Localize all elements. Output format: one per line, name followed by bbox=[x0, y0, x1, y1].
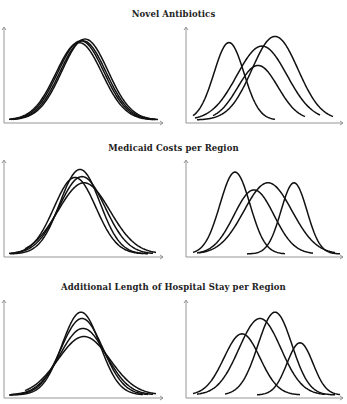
distribution-curve bbox=[9, 177, 143, 253]
distribution-curve bbox=[11, 41, 156, 120]
chart-hospital-stay-left bbox=[3, 300, 167, 402]
distribution-curve bbox=[9, 43, 153, 120]
distribution-curve bbox=[257, 343, 340, 395]
y-axis bbox=[184, 160, 188, 257]
x-axis bbox=[186, 255, 343, 259]
y-axis bbox=[2, 27, 6, 123]
distribution-curve bbox=[193, 172, 285, 254]
distribution-curve bbox=[25, 183, 156, 253]
section-title-hospital-stay: Additional Length of Hospital Stay per R… bbox=[0, 282, 347, 292]
distribution-curve bbox=[193, 334, 300, 395]
distribution-curve bbox=[25, 337, 156, 394]
x-axis bbox=[186, 121, 343, 125]
x-axis bbox=[4, 255, 163, 259]
x-axis bbox=[4, 121, 163, 125]
y-axis bbox=[184, 27, 188, 123]
x-axis bbox=[4, 396, 163, 400]
distribution-curve bbox=[197, 36, 333, 119]
distribution-curve bbox=[197, 319, 325, 395]
chart-medicaid-costs-left bbox=[3, 160, 167, 261]
chart-medicaid-costs-right bbox=[185, 160, 347, 261]
section-title-novel-antibiotics: Novel Antibiotics bbox=[0, 9, 347, 19]
y-axis bbox=[2, 300, 6, 398]
section-title-medicaid-costs: Medicaid Costs per Region bbox=[0, 143, 347, 153]
chart-novel-antibiotics-right bbox=[185, 27, 347, 127]
distribution-curve bbox=[10, 41, 155, 120]
chart-hospital-stay-right bbox=[185, 300, 347, 402]
y-axis bbox=[2, 160, 6, 257]
distribution-curve bbox=[199, 183, 335, 253]
distribution-curve bbox=[225, 312, 335, 395]
distribution-curve bbox=[10, 169, 148, 253]
y-axis bbox=[184, 300, 188, 398]
chart-novel-antibiotics-left bbox=[3, 27, 167, 127]
distribution-curve bbox=[11, 177, 153, 254]
x-axis bbox=[186, 396, 343, 400]
